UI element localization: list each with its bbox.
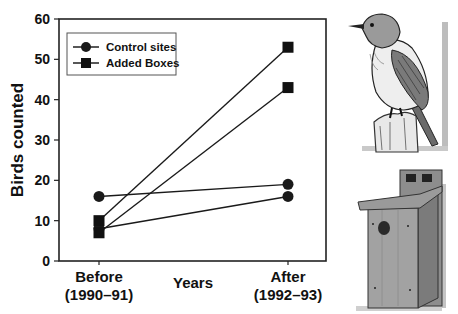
data-point-circle: [94, 191, 105, 202]
bird-illustration: [346, 4, 456, 154]
box-front: [368, 208, 418, 308]
data-point-square: [94, 227, 105, 238]
data-point-square: [94, 215, 105, 226]
y-tick-label: 10: [34, 213, 50, 229]
x-tick-label: After: [270, 268, 305, 285]
shadow: [442, 22, 448, 150]
data-point-square: [283, 82, 294, 93]
nail: [407, 225, 409, 227]
beak-icon: [348, 24, 364, 29]
mount-bracket-icon: [422, 174, 432, 182]
entrance-hole-icon: [378, 221, 390, 235]
bird-head-icon: [362, 14, 400, 48]
legend-square-icon: [81, 58, 91, 68]
eye-icon: [370, 23, 374, 27]
y-tick-label: 60: [34, 11, 50, 27]
x-tick-label: (1992–93): [254, 286, 322, 303]
y-tick-label: 50: [34, 51, 50, 67]
legend-label: Control sites: [106, 41, 176, 53]
data-point-circle: [283, 191, 294, 202]
series-line: [99, 88, 288, 233]
data-point-circle: [283, 179, 294, 190]
y-tick-label: 30: [34, 132, 50, 148]
nail: [374, 287, 376, 289]
line-chart: 0102030405060Before(1990–91)After(1992–9…: [0, 0, 340, 314]
data-point-square: [283, 42, 294, 53]
legend-label: Added Boxes: [106, 57, 180, 69]
nest-box-illustration: [348, 164, 458, 314]
mount-bracket-icon: [406, 174, 416, 182]
box-side: [418, 194, 438, 308]
series-line: [99, 196, 288, 228]
chart-legend: Control sitesAdded Boxes: [67, 33, 180, 75]
nail: [372, 223, 374, 225]
legend-circle-icon: [81, 42, 91, 52]
y-axis-label: Birds counted: [8, 83, 27, 197]
x-tick-label: (1990–91): [65, 286, 133, 303]
y-tick-label: 0: [42, 253, 50, 269]
nail: [409, 289, 411, 291]
x-axis-label: Years: [173, 274, 213, 291]
x-tick-label: Before: [75, 268, 123, 285]
y-tick-label: 40: [34, 92, 50, 108]
y-tick-label: 20: [34, 172, 50, 188]
